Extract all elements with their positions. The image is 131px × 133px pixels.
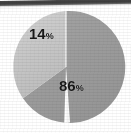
- pie-label-major-suffix: %: [76, 83, 84, 93]
- pie-label-minor-value: 14: [29, 25, 45, 42]
- pie-chart-svg: [0, 0, 131, 133]
- pie-label-minor: 14%: [29, 26, 54, 42]
- pie-label-major-value: 86: [59, 77, 75, 94]
- chart-page: 14% 86%: [0, 0, 131, 133]
- pie-chart: 14% 86%: [0, 0, 131, 133]
- pie-label-minor-suffix: %: [46, 31, 54, 41]
- pie-label-major: 86%: [59, 78, 84, 94]
